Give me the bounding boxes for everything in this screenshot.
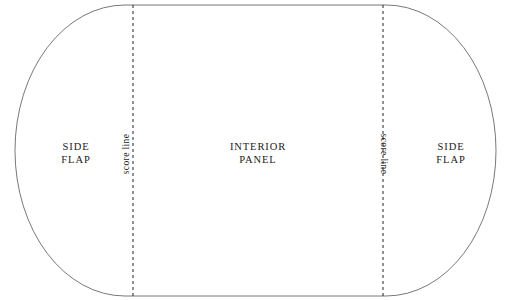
- interior-panel-label-line-2: PANEL: [188, 153, 328, 166]
- diagram-canvas: SIDE FLAP INTERIOR PANEL SIDE FLAP score…: [0, 0, 510, 300]
- left-side-flap-label: SIDE FLAP: [36, 140, 116, 166]
- right-side-flap-label: SIDE FLAP: [411, 140, 491, 166]
- left-side-flap-label-line-1: SIDE: [36, 140, 116, 153]
- right-score-line-label: score line: [377, 109, 389, 199]
- interior-panel-label: INTERIOR PANEL: [188, 140, 328, 166]
- left-side-flap-label-line-2: FLAP: [36, 153, 116, 166]
- right-side-flap-label-line-1: SIDE: [411, 140, 491, 153]
- interior-panel-label-line-1: INTERIOR: [188, 140, 328, 153]
- right-side-flap-label-line-2: FLAP: [411, 153, 491, 166]
- left-score-line-label: score line: [121, 109, 133, 199]
